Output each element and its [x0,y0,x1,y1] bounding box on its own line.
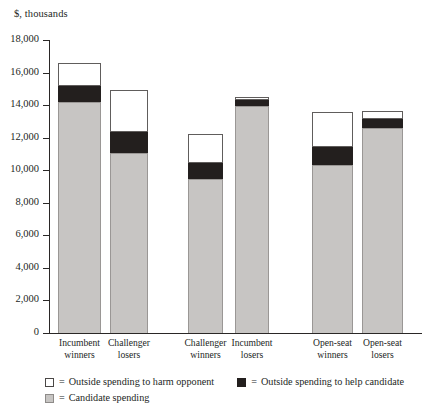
legend-row: =Outside spending to harm opponent=Outsi… [45,374,425,390]
y-tick-label: 12,000 [10,131,39,142]
bar-segment-harm [312,112,353,148]
bar-incumbent-winners [58,63,101,333]
y-tick-label: 0 [34,326,39,337]
y-tick-label: 10,000 [10,163,39,174]
plot-area: 18,00016,00014,00012,00010,0008,0006,000… [49,40,422,333]
x-axis-label: Incumbentlosers [212,337,292,360]
y-tick-label: 16,000 [10,66,39,77]
bar-open-seat-winners [312,112,353,333]
legend-item: =Outside spending to harm opponent [45,374,214,390]
y-tick-label: 18,000 [10,33,39,44]
bar-segment-harm [110,90,148,132]
legend-swatch-gray [45,394,54,403]
x-axis-label-line: Challenger [89,337,169,349]
y-tick: 14,000 [43,105,49,106]
y-tick-label: 6,000 [15,228,39,239]
y-axis-line [49,40,50,333]
y-tick: 2,000 [43,300,49,301]
x-axis-label-line: Open-seat [343,337,423,349]
y-tick-label: 4,000 [15,261,39,272]
y-tick: 8,000 [43,203,49,204]
bar-segment-help [312,147,353,165]
legend-label: Outside spending to harm opponent [69,374,214,390]
legend-swatch-white [45,378,54,387]
legend-item: =Candidate spending [45,390,149,406]
x-axis-label-line: losers [89,349,169,361]
chart-legend: =Outside spending to harm opponent=Outsi… [45,374,425,406]
legend-equals: = [59,390,65,406]
bar-incumbent-losers [235,97,269,333]
y-tick-label: 8,000 [15,196,39,207]
bar-segment-candidate [58,102,101,333]
bar-segment-candidate [188,179,223,333]
y-axis-title: $, thousands [14,8,68,19]
y-tick: 10,000 [43,170,49,171]
legend-label: Outside spending to help candidate [261,374,404,390]
bar-segment-harm [188,134,223,163]
y-tick: 4,000 [43,268,49,269]
y-tick: 6,000 [43,235,49,236]
bar-segment-candidate [312,165,353,333]
x-axis-label: Open-seatlosers [343,337,423,360]
y-tick: 12,000 [43,138,49,139]
bar-segment-harm [362,111,403,119]
bar-segment-harm [58,63,101,87]
y-tick-label: 2,000 [15,293,39,304]
legend-equals: = [251,374,257,390]
legend-row: =Candidate spending [45,390,425,406]
bar-segment-help [235,100,269,106]
x-axis-label-line: Incumbent [212,337,292,349]
y-tick: 16,000 [43,73,49,74]
x-axis-label-line: losers [343,349,423,361]
bar-segment-harm [235,97,269,100]
legend-label: Candidate spending [69,390,150,406]
x-axis-line [49,333,422,334]
bar-segment-candidate [110,153,148,333]
legend-equals: = [59,374,65,390]
bar-open-seat-losers [362,111,403,333]
y-tick-label: 14,000 [10,98,39,109]
legend-swatch-black [237,378,246,387]
legend-item: =Outside spending to help candidate [237,374,404,390]
x-axis-label: Challengerlosers [89,337,169,360]
y-tick: 18,000 [43,40,49,41]
bar-segment-help [110,132,148,153]
y-tick: 0 [43,333,49,334]
bar-segment-help [58,86,101,101]
x-axis-label-line: losers [212,349,292,361]
bar-segment-help [362,119,403,128]
bar-challenger-losers [110,90,148,333]
bar-segment-help [188,163,223,179]
bar-segment-candidate [235,106,269,333]
bar-segment-candidate [362,128,403,333]
bar-challenger-winners [188,134,223,333]
